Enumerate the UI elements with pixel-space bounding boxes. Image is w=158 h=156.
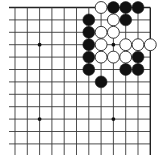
black-stone[interactable] [107,2,119,14]
black-stone[interactable] [83,51,95,63]
black-stone[interactable] [83,64,95,76]
white-stone[interactable] [120,39,132,51]
black-stone[interactable] [83,14,95,26]
black-stone[interactable] [132,64,144,76]
star-point [38,117,42,121]
black-stone[interactable] [95,76,107,88]
white-stone[interactable] [95,39,107,51]
black-stone[interactable] [120,14,132,26]
black-stone[interactable] [83,26,95,38]
star-point [112,117,116,121]
go-board[interactable] [0,0,158,156]
white-stone[interactable] [107,14,119,26]
black-stone[interactable] [132,51,144,63]
board-grid [9,8,150,156]
white-stone[interactable] [132,39,144,51]
black-stone[interactable] [120,64,132,76]
white-stone[interactable] [107,26,119,38]
black-stone[interactable] [120,2,132,14]
stones-layer [83,2,156,88]
white-stone[interactable] [95,2,107,14]
white-stone[interactable] [120,51,132,63]
black-stone[interactable] [83,39,95,51]
white-stone[interactable] [107,51,119,63]
star-point [38,43,42,47]
white-stone[interactable] [95,26,107,38]
white-stone[interactable] [95,51,107,63]
black-stone[interactable] [132,2,144,14]
white-stone[interactable] [144,39,156,51]
star-point [112,43,116,47]
